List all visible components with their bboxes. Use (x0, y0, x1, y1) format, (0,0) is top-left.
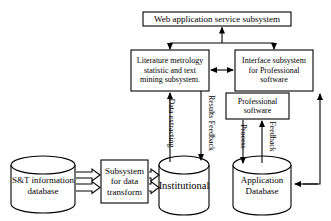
diagram-canvas: Web application service subsystem Litera… (0, 0, 331, 221)
node-professional-shape (226, 93, 289, 119)
node-web-app-shape (143, 12, 291, 26)
edge-st-db-to-transform (76, 169, 100, 194)
edge-application-db-to-interface (303, 94, 320, 184)
node-institutional-shape (159, 156, 209, 215)
edge-transform-to-institutional (149, 169, 159, 194)
edge-subsystems-to-web-app (170, 28, 274, 44)
node-transform-shape (101, 160, 148, 203)
node-literature-shape (131, 50, 209, 91)
diagram-graphics (0, 0, 331, 221)
node-interface-shape (235, 50, 313, 91)
node-application-db-shape (233, 156, 291, 215)
node-st-info-db-shape (11, 156, 75, 213)
